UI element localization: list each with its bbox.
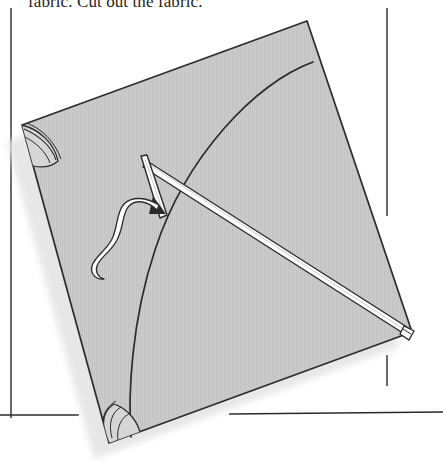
illustration-page: fabric. Cut out the fabric. [0,0,443,469]
kite-figure [0,0,443,469]
bottom-rule-right [229,412,443,414]
